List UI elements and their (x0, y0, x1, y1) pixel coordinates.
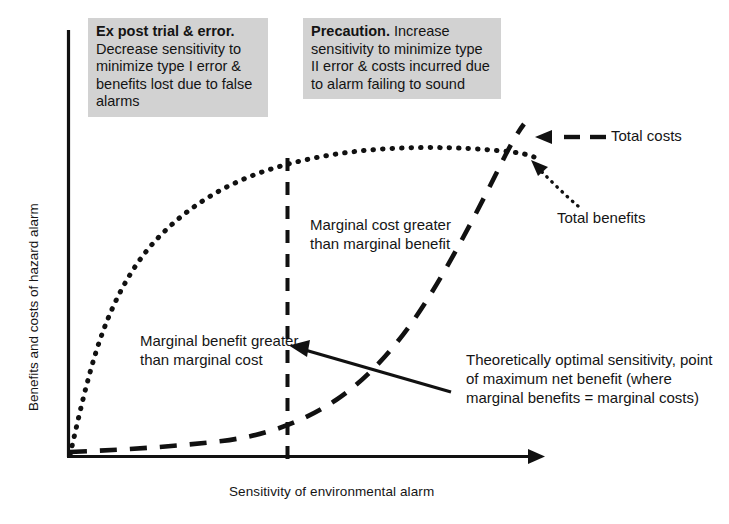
total-costs-curve (70, 124, 524, 452)
callout-precaution-title: Precaution. (311, 23, 390, 39)
note-marginal-cost-greater: Marginal cost greater than marginal bene… (310, 215, 470, 253)
note-theoretically-optimal: Theoretically optimal sensitivity, point… (466, 350, 724, 407)
x-axis-arrowhead (528, 449, 545, 464)
callout-ex-post-body: Decrease sensitivity to minimize type I … (96, 41, 252, 110)
note-marginal-benefit-greater: Marginal benefit greater than marginal c… (140, 331, 310, 369)
legend-label-total-benefits: Total benefits (557, 209, 645, 226)
total-benefits-leader-arrowhead (531, 160, 548, 176)
callout-precaution: Precaution. Increase sensitivity to mini… (303, 18, 501, 99)
figure-canvas: Ex post trial & error. Decrease sensitiv… (0, 0, 729, 524)
total-benefits-curve (70, 148, 534, 455)
legend-label-total-costs: Total costs (611, 127, 682, 144)
legend-arrowhead-total-costs (535, 130, 552, 144)
total-benefits-leader (540, 170, 578, 206)
callout-ex-post-title: Ex post trial & error. (96, 23, 235, 39)
optimum-pointer-line (305, 350, 451, 392)
y-axis-label: Benefits and costs of hazard alarm (26, 203, 41, 411)
x-axis-label: Sensitivity of environmental alarm (229, 484, 434, 499)
callout-ex-post-trial-and-error: Ex post trial & error. Decrease sensitiv… (88, 18, 268, 117)
